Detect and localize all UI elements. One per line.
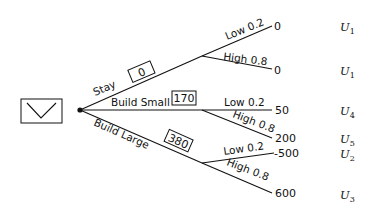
- branch-build-small-label: Build Small: [111, 96, 170, 108]
- ev-box-build-small: 170: [172, 91, 196, 105]
- payoff-stay-low: 0: [274, 20, 281, 33]
- outcome-stay-high-label: High 0.8: [223, 50, 268, 67]
- decision-box-icon: [21, 99, 62, 123]
- payoff-small-high: 200: [275, 132, 296, 145]
- ev-box-stay: 0: [128, 61, 156, 83]
- utility-small-high: U5: [340, 132, 355, 148]
- utility-stay-low: U1: [340, 20, 355, 36]
- decision-tree-diagram: Stay Build Small Build Large 0 170 380 L…: [0, 0, 373, 216]
- payoff-stay-high: 0: [274, 64, 281, 77]
- outcome-large-low-label: Low 0.2: [223, 139, 265, 157]
- payoff-small-low: 50: [275, 104, 289, 117]
- outcome-small-low-label: Low 0.2: [224, 96, 265, 108]
- payoff-large-high: 600: [275, 187, 296, 200]
- utility-small-low: U4: [340, 104, 355, 120]
- utility-large-low: U2: [340, 147, 355, 163]
- outcome-large-high-label: High 0.8: [225, 156, 271, 183]
- utility-stay-high: U1: [340, 64, 355, 80]
- payoff-large-low: -500: [274, 147, 299, 160]
- svg-text:170: 170: [174, 92, 195, 105]
- branch-build-large-label: Build Large: [92, 116, 151, 151]
- ev-box-build-large: 380: [164, 129, 193, 152]
- utility-large-high: U3: [340, 188, 355, 204]
